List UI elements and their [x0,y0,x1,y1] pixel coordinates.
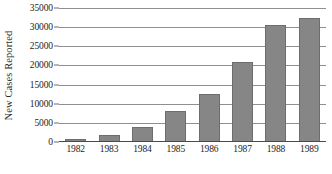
y-tick-label-10000: 10000 [30,99,53,109]
x-tick-label-1989: 1989 [293,144,326,160]
bars-container [59,8,326,142]
bar-1986[interactable] [199,94,220,142]
bar-chart: New Cases Reported 050001000015000200002… [0,0,332,174]
bar-slot-1987 [226,8,259,142]
y-tick-label-20000: 20000 [30,60,53,70]
bar-slot-1989 [293,8,326,142]
bar-slot-1982 [59,8,92,142]
x-tick-label-1987: 1987 [226,144,259,160]
bar-1988[interactable] [265,25,286,142]
bar-slot-1983 [92,8,125,142]
x-tick-label-1986: 1986 [193,144,226,160]
x-axis-line [59,141,326,142]
x-tick-label-1988: 1988 [259,144,292,160]
y-tick-label-15000: 15000 [30,80,53,90]
y-tick-label-35000: 35000 [30,3,53,13]
y-tick-label-5000: 5000 [34,118,53,128]
x-tick-label-1982: 1982 [59,144,92,160]
bar-slot-1986 [193,8,226,142]
x-tick-label-1983: 1983 [92,144,125,160]
x-tick-label-1985: 1985 [159,144,192,160]
plot-area [59,8,326,142]
bar-slot-1985 [159,8,192,142]
y-axis-title: New Cases Reported [0,0,18,150]
x-axis-tick-labels: 19821983198419851986198719881989 [59,144,326,160]
bar-slot-1988 [259,8,292,142]
y-axis-title-text: New Cases Reported [4,30,15,120]
y-tick-label-30000: 30000 [30,22,53,32]
bar-1985[interactable] [165,111,186,142]
bar-1989[interactable] [299,18,320,142]
y-tick-label-0: 0 [48,137,53,147]
y-axis-tick-labels: 05000100001500020000250003000035000 [18,0,59,150]
bar-slot-1984 [126,8,159,142]
x-tick-label-1984: 1984 [126,144,159,160]
bar-1987[interactable] [232,62,253,142]
y-tick-label-25000: 25000 [30,41,53,51]
